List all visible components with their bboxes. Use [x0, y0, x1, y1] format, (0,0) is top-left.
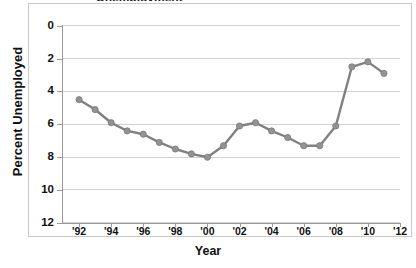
y-tick-mark-12 [57, 26, 63, 27]
x-axis-label: Year [0, 244, 416, 258]
x-tick-label-2002: '02 [227, 226, 253, 237]
y-tick-mark-2 [57, 190, 63, 191]
y-tick-label-6: 6 [30, 118, 54, 129]
y-tick-label-12: 0 [30, 20, 54, 31]
gridline-y-4 [63, 157, 400, 158]
x-tick-label-2006: '06 [291, 226, 317, 237]
gridline-y-12 [63, 25, 400, 26]
x-tick-label-2008: '08 [323, 226, 349, 237]
y-tick-mark-0 [57, 223, 63, 224]
x-tick-label-2012: '12 [387, 226, 413, 237]
x-axis-line [62, 223, 401, 224]
gridline-y-6 [63, 124, 400, 125]
x-tick-label-2010: '10 [355, 226, 381, 237]
x-tick-label-1992: '92 [66, 226, 92, 237]
plot-area [63, 25, 400, 224]
y-tick-mark-4 [57, 157, 63, 158]
x-tick-label-1996: '96 [130, 226, 156, 237]
y-tick-label-8: 4 [30, 85, 54, 96]
y-tick-label-10: 2 [30, 53, 54, 64]
y-tick-mark-10 [57, 59, 63, 60]
gridline-y-8 [63, 91, 400, 92]
x-tick-label-2000: '00 [194, 226, 220, 237]
y-tick-mark-8 [57, 91, 63, 92]
y-axis-label: Percent Unemployed [10, 37, 25, 187]
y-tick-label-4: 8 [30, 151, 54, 162]
y-tick-mark-6 [57, 124, 63, 125]
gridline-y-10 [63, 58, 400, 59]
y-tick-label-2: 10 [30, 184, 54, 195]
y-tick-label-0: 12 [30, 217, 54, 228]
gridline-y-2 [63, 189, 400, 190]
unemployment-chart-figure: Unemployment Percent Unemployed Year 121… [0, 0, 416, 268]
x-tick-label-1994: '94 [98, 226, 124, 237]
chart-title: Unemployment [96, 0, 316, 1]
x-tick-label-1998: '98 [162, 226, 188, 237]
x-tick-label-2004: '04 [259, 226, 285, 237]
